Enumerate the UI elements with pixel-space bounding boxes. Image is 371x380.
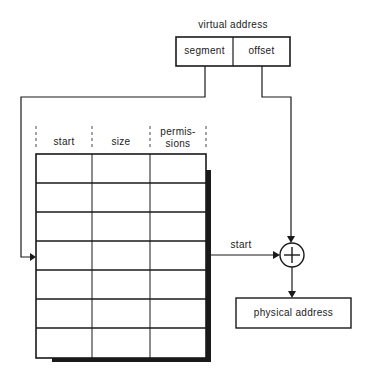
header-start: start — [36, 136, 92, 147]
diagram-lines — [0, 0, 371, 380]
physical-address-label: physical address — [236, 307, 351, 318]
offset-path — [262, 66, 291, 240]
start-arrowhead — [273, 251, 280, 259]
header-permissions-1: permis- — [150, 126, 206, 137]
segment-arrowhead — [30, 253, 36, 261]
segment-label: segment — [176, 45, 233, 56]
offset-arrowhead — [287, 236, 295, 243]
virtual-address-title: virtual address — [176, 19, 290, 30]
header-size: size — [92, 136, 150, 147]
start-arrow-label: start — [226, 239, 256, 250]
offset-label: offset — [233, 45, 290, 56]
output-arrowhead — [288, 291, 296, 298]
header-permissions-2: sions — [150, 138, 206, 149]
